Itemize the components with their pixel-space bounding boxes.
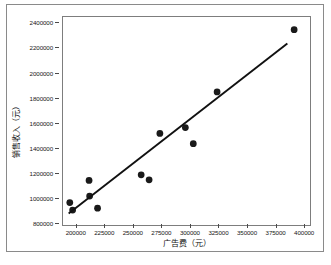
x-tick-mark: [104, 224, 105, 228]
y-tick-mark: [55, 98, 59, 99]
y-tick-mark: [55, 223, 59, 224]
data-point: [86, 177, 93, 184]
x-tick-label: 350000: [237, 229, 257, 236]
x-tick-mark: [190, 224, 191, 228]
x-axis-title: 广告费（元）: [62, 237, 311, 248]
data-point: [66, 199, 73, 206]
figure-frame: 销售收入（元） 80000010000001200000140000016000…: [6, 4, 324, 252]
data-point: [94, 205, 101, 212]
y-axis-tick-labels: 8000001000000120000014000001600000180000…: [7, 16, 59, 226]
x-tick-mark: [247, 224, 248, 228]
y-tick-mark: [55, 173, 59, 174]
y-tick-label: 1200000: [30, 170, 53, 177]
y-tick-label: 2400000: [30, 19, 53, 26]
data-point: [157, 130, 164, 137]
y-tick-mark: [55, 47, 59, 48]
plot-area: [62, 16, 311, 226]
y-tick-label: 1400000: [30, 145, 53, 152]
y-tick-label: 1000000: [30, 195, 53, 202]
x-tick-mark: [218, 224, 219, 228]
x-tick-mark: [276, 224, 277, 228]
y-tick-label: 2200000: [30, 44, 53, 51]
regression-line: [69, 43, 288, 213]
data-point: [190, 140, 197, 147]
x-tick-label: 225000: [94, 229, 114, 236]
data-point: [291, 26, 298, 33]
x-tick-label: 300000: [180, 229, 200, 236]
x-tick-label: 275000: [151, 229, 171, 236]
y-tick-label: 800000: [33, 220, 53, 227]
y-tick-mark: [55, 148, 59, 149]
x-tick-mark: [76, 224, 77, 228]
x-tick-label: 375000: [266, 229, 286, 236]
scatter-plot-canvas: [63, 17, 310, 225]
x-tick-label: 200000: [66, 229, 86, 236]
x-tick-mark: [161, 224, 162, 228]
y-tick-mark: [55, 22, 59, 23]
y-tick-mark: [55, 73, 59, 74]
x-tick-label: 325000: [208, 229, 228, 236]
y-tick-mark: [55, 198, 59, 199]
x-tick-label: 250000: [123, 229, 143, 236]
x-tick-label: 400000: [294, 229, 314, 236]
data-point: [214, 89, 221, 96]
x-tick-mark: [304, 224, 305, 228]
data-point: [146, 176, 153, 183]
y-tick-label: 1600000: [30, 119, 53, 126]
data-point: [138, 171, 145, 178]
x-tick-mark: [133, 224, 134, 228]
y-tick-label: 1800000: [30, 94, 53, 101]
y-tick-mark: [55, 123, 59, 124]
y-tick-label: 2000000: [30, 69, 53, 76]
